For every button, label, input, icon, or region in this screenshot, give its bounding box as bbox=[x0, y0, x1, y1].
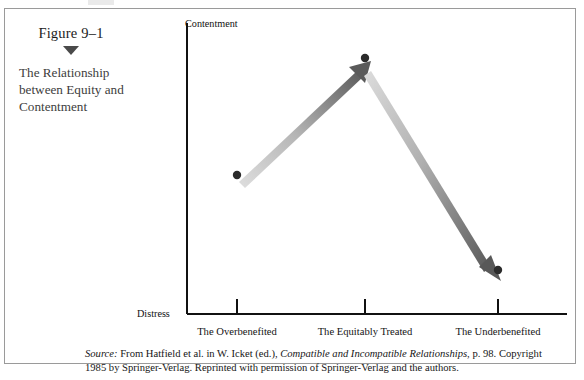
chart-plot-area: Contentment Distress bbox=[125, 9, 575, 349]
x-axis-label-equitably-treated: The Equitably Treated bbox=[318, 326, 413, 337]
figure-number: Figure 9–1 bbox=[15, 25, 127, 42]
y-axis-top-label: Contentment bbox=[185, 18, 238, 29]
data-point-underbenefited bbox=[494, 266, 502, 274]
source-note-text-before-title: From Hatfield et al. in W. Icket (ed.), bbox=[118, 348, 281, 359]
x-axis-label-overbenefited: The Overbenefited bbox=[197, 326, 277, 337]
equity-contentment-line-chart: Contentment Distress bbox=[125, 9, 575, 349]
figure-caption-block: Figure 9–1 The Relationship between Equi… bbox=[15, 25, 127, 115]
data-point-equitably-treated bbox=[361, 54, 369, 62]
x-axis-label-underbenefited: The Underbenefited bbox=[455, 326, 541, 337]
source-note: Source: From Hatfield et al. in W. Icket… bbox=[85, 347, 549, 374]
source-note-label: Source: bbox=[85, 348, 118, 359]
figure-frame: Figure 9–1 The Relationship between Equi… bbox=[4, 8, 576, 364]
scan-artifact bbox=[88, 0, 114, 5]
y-axis-bottom-label: Distress bbox=[137, 308, 170, 319]
figure-caption-text: The Relationship between Equity and Cont… bbox=[15, 64, 127, 115]
falling-trend-arrow bbox=[364, 71, 501, 281]
source-note-book-title: Compatible and Incompatible Relationship… bbox=[280, 348, 467, 359]
rising-trend-arrow bbox=[239, 61, 371, 188]
data-point-overbenefited bbox=[233, 171, 241, 179]
down-triangle-icon bbox=[63, 46, 79, 55]
